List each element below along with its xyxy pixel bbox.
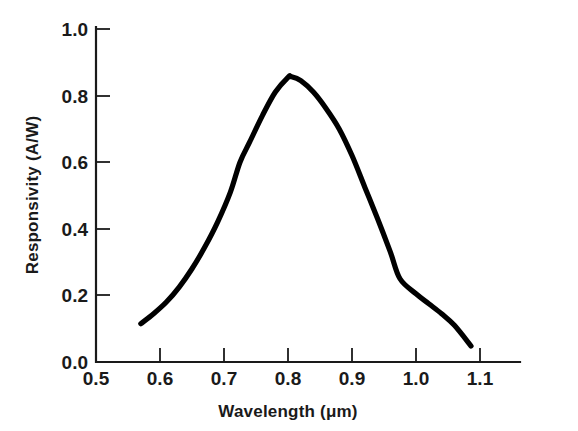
- y-tick-label-1.0: 1.0: [62, 19, 88, 40]
- x-tick-label-0.7: 0.7: [211, 368, 237, 389]
- figure-container: 1.0 0.8 0.6 0.4 0.2 0.0 0.5 0.6 0.7 0.8 …: [0, 0, 578, 431]
- x-tick-label-0.8: 0.8: [275, 368, 301, 389]
- responsivity-vs-wavelength-chart: 1.0 0.8 0.6 0.4 0.2 0.0 0.5 0.6 0.7 0.8 …: [0, 0, 578, 431]
- x-tick-label-1.1: 1.1: [467, 368, 494, 389]
- x-tick-label-0.6: 0.6: [147, 368, 173, 389]
- x-tick-label-0.9: 0.9: [339, 368, 365, 389]
- y-tick-label-0.8: 0.8: [62, 86, 88, 107]
- x-axis-title: Wavelength (μm): [218, 402, 357, 421]
- y-axis-title: Responsivity (A/W): [23, 116, 42, 275]
- y-tick-label-0.6: 0.6: [62, 152, 88, 173]
- y-tick-label-0.2: 0.2: [62, 285, 88, 306]
- y-tick-label-0.4: 0.4: [62, 219, 89, 240]
- x-tick-label-0.5: 0.5: [83, 368, 110, 389]
- x-tick-label-1.0: 1.0: [403, 368, 429, 389]
